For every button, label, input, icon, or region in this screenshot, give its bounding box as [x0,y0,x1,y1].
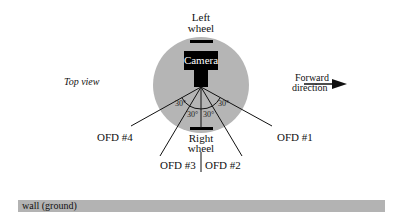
sensor-label-ofd-3: OFD #3 [160,160,196,171]
camera-stem [194,69,208,87]
left-wheel-label: Left wheel [184,12,218,34]
camera-label: Camera [184,54,218,66]
forward-direction-label: Forward direction [292,73,329,93]
forward-label-line2: direction [292,83,329,93]
angle-label-outer-left: 30° [175,99,186,108]
angle-label-outer-right: 30° [218,99,229,108]
right-wheel-label: Right wheel [182,133,220,153]
sensor-label-ofd-4: OFD #4 [97,132,133,143]
wall-label: wall (ground) [22,201,77,211]
angle-label-inner-left: 30° [187,110,198,119]
top-view-label: Top view [64,76,99,87]
sensor-label-ofd-2: OFD #2 [205,160,241,171]
left-wheel-label-line2: wheel [184,23,218,34]
wall-ground-bar: wall (ground) [18,200,385,212]
sensor-label-ofd-1: OFD #1 [277,132,313,143]
right-wheel-label-line2: wheel [182,143,220,153]
angle-label-inner-right: 30° [203,110,214,119]
forward-arrow-icon [332,79,347,89]
left-wheel [190,40,213,43]
